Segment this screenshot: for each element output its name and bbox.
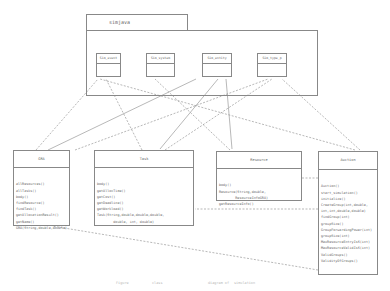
caption-part-4: simulation	[234, 281, 255, 285]
class-sim-type-p[interactable]: Sim_type_p	[257, 53, 287, 77]
caption-part-3: diagram of	[208, 281, 229, 285]
package-name: simjava	[109, 19, 130, 25]
class-sim-system[interactable]: Sim_system	[146, 53, 175, 77]
class-task[interactable]: Task body()getAllocTime()getCost()getDea…	[94, 150, 194, 226]
caption-part-1: Figure	[116, 281, 129, 285]
operations-resource: body()Resource(String,double, ResourceIn…	[217, 169, 301, 221]
class-resource[interactable]: Resource body()Resource(String,double, R…	[216, 151, 302, 201]
class-sim-event[interactable]: Sim_event	[96, 53, 121, 77]
operations-gra: allResources()allTasks()body()findResour…	[14, 168, 69, 244]
class-auction[interactable]: Auction Auction()start_simulation()initi…	[318, 151, 378, 275]
class-gra[interactable]: GRA allResources()allTasks()body()findRe…	[13, 150, 70, 226]
operations-task: body()getAllocTime()getCost()getDeadline…	[95, 168, 193, 238]
operations-auction: Auction()start_simulation()initialize()C…	[319, 170, 377, 277]
package-tab: simjava	[86, 14, 188, 31]
caption-part-2: class	[152, 281, 163, 285]
class-sim-entity[interactable]: Sim_entity	[202, 53, 232, 77]
